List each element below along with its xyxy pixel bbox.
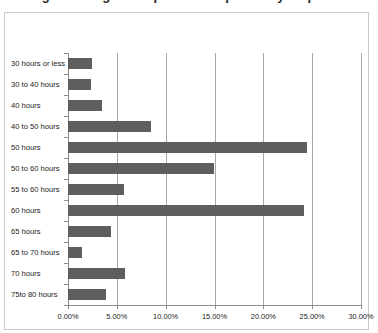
bar-row	[68, 179, 361, 200]
x-axis-line	[68, 305, 362, 306]
y-axis-category-label: 60 hours	[11, 206, 66, 215]
bar-row	[68, 242, 361, 263]
x-axis-tick-label: 10.00%	[146, 312, 186, 321]
bar	[68, 121, 151, 132]
bar	[68, 226, 111, 237]
bar	[68, 58, 92, 69]
bar	[68, 100, 102, 111]
y-axis-category-label: 65 to 70 hours	[11, 248, 66, 257]
y-axis-category-label: 65 hours	[11, 227, 66, 236]
y-axis-category-label: 75to 80 hours	[11, 290, 66, 299]
bar-row	[68, 263, 361, 284]
bar-row	[68, 137, 361, 158]
x-axis-tick-label: 15.00%	[195, 312, 235, 321]
y-axis-category-label: 30 hours or less	[11, 59, 66, 68]
bar	[68, 247, 82, 258]
bar-row	[68, 53, 361, 74]
chart-frame: 30 hours or less30 to 40 hours40 hours40…	[4, 12, 369, 330]
y-axis-category-label: 30 to 40 hours	[11, 80, 66, 89]
bar-row	[68, 284, 361, 305]
y-axis-category-label: 40 hours	[11, 101, 66, 110]
x-axis-tick-label: 25.00%	[292, 312, 332, 321]
y-axis-category-label: 55 to 60 hours	[11, 185, 66, 194]
x-axis-tick-label: 20.00%	[243, 312, 283, 321]
bar	[68, 268, 125, 279]
chart-plot-wrapper: 30 hours or less30 to 40 hours40 hours40…	[5, 13, 370, 331]
x-axis-tick-label: 5.00%	[97, 312, 137, 321]
bar-row	[68, 158, 361, 179]
bar	[68, 163, 214, 174]
bar	[68, 142, 307, 153]
y-axis-category-label: 50 hours	[11, 143, 66, 152]
cut-off-title-sliver: Average working hours per week reported …	[0, 0, 371, 9]
x-axis-tick-label: 30.00%	[341, 312, 378, 321]
bar	[68, 184, 124, 195]
y-axis-category-label: 40 to 50 hours	[11, 122, 66, 131]
x-axis-tick-label: 0.00%	[48, 312, 88, 321]
bar	[68, 79, 91, 90]
plot-area	[68, 53, 361, 305]
bar-row	[68, 200, 361, 221]
y-axis-category-label: 50 to 60 hours	[11, 164, 66, 173]
gridline-30.00%	[361, 53, 362, 305]
y-axis-category-label: 70 hours	[11, 269, 66, 278]
bar-row	[68, 221, 361, 242]
bar-row	[68, 95, 361, 116]
bar-row	[68, 116, 361, 137]
bar	[68, 205, 304, 216]
bar	[68, 289, 106, 300]
bar-row	[68, 74, 361, 95]
